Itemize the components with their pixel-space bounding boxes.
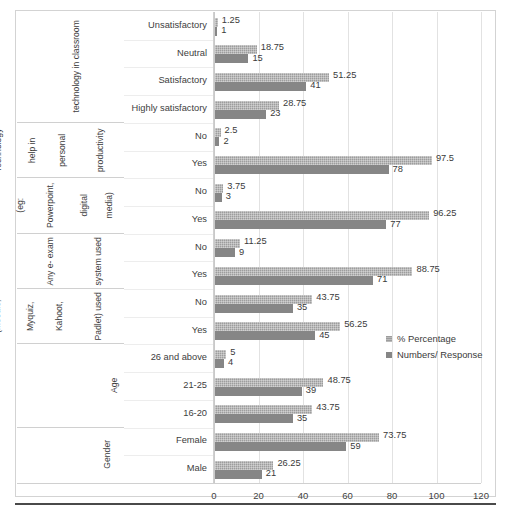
x-tick-label-100: 100	[429, 490, 445, 501]
bar-value-label-percentage: 96.25	[433, 209, 456, 218]
group-label-line: technology in classroom	[72, 20, 81, 112]
bar-value-label-percentage: 73.75	[383, 431, 406, 440]
row-separator	[124, 206, 213, 207]
x-tick-label-20: 20	[253, 490, 264, 501]
row-separator	[124, 151, 213, 152]
bar-value-label-percentage: 3.75	[227, 182, 245, 191]
category-label: Neutral	[177, 49, 207, 58]
x-tick-label-80: 80	[387, 490, 398, 501]
bar-value-label-numbers: 71	[377, 275, 387, 284]
group-label: Level of Satisfaction usingtechnology in…	[0, 11, 124, 122]
category-label: Highly satisfactory	[132, 104, 207, 113]
row-separator	[124, 317, 213, 318]
bar-numbers	[215, 276, 373, 285]
bar-value-label-percentage: 51.25	[333, 71, 356, 80]
row-separator	[124, 455, 213, 456]
bar-value-label-percentage: 28.75	[283, 99, 306, 108]
bar-numbers	[215, 387, 302, 396]
group-label: ICT toolssuch as(Moodle,Myquiz,Kahoot,Pa…	[0, 289, 124, 343]
category-label: No	[195, 187, 207, 196]
legend-label-percentage: % Percentage	[397, 333, 456, 344]
bar-value-label-numbers: 23	[270, 109, 280, 118]
bar-numbers	[215, 470, 262, 479]
category-label: Male	[187, 464, 207, 473]
row-separator	[124, 400, 213, 401]
group-label-line: media)	[105, 192, 114, 218]
bar-numbers	[215, 220, 386, 229]
category-label: Female	[176, 436, 207, 445]
bar-value-label-numbers: 2	[223, 137, 228, 146]
group-band: Level of Satisfaction usingtechnology in…	[17, 11, 124, 122]
legend-item-numbers: Numbers/ Response	[386, 349, 482, 360]
group-label: Age	[107, 344, 124, 426]
row-separator	[124, 67, 213, 68]
group-label-line: Age	[110, 378, 119, 393]
group-label-line: digital	[80, 194, 89, 216]
group-band: Technologyforinformationpresentation(eg:…	[17, 177, 124, 232]
legend-item-percentage: % Percentage	[386, 333, 482, 344]
bar-value-label-percentage: 26.25	[277, 459, 300, 468]
group-label-line: Any e- exam	[45, 237, 54, 285]
row-separator	[124, 261, 213, 262]
row-separator	[124, 234, 213, 235]
group-label: Technologyhelp inpersonalproductivity	[0, 123, 124, 177]
row-separator	[124, 428, 213, 429]
group-label-line: Gender	[103, 440, 112, 469]
category-label: No	[195, 298, 207, 307]
bar-numbers	[215, 27, 217, 36]
bar-percentage	[215, 184, 223, 193]
bar-value-label-percentage: 97.5	[436, 154, 454, 163]
bar-percentage	[215, 18, 218, 27]
gridline-80	[392, 12, 393, 483]
category-label-column: UnsatisfactoryNeutralSatisfactoryHighly …	[124, 12, 214, 483]
bar-value-label-percentage: 56.25	[344, 320, 367, 329]
category-label: No	[195, 132, 207, 141]
group-label-line: Padlet) used	[94, 292, 103, 340]
group-label-line: Powerpoint,	[46, 183, 55, 228]
row-separator	[124, 40, 213, 41]
group-label-line: (eg:	[16, 198, 25, 213]
bar-value-label-numbers: 9	[239, 248, 244, 257]
bar-numbers	[215, 248, 235, 257]
gridline-100	[437, 12, 438, 483]
bar-value-label-numbers: 1	[221, 26, 226, 35]
bar-value-label-numbers: 21	[266, 469, 276, 478]
group-label-line: personal	[58, 134, 67, 167]
row-separator	[124, 95, 213, 96]
bar-value-label-numbers: 4	[228, 358, 233, 367]
bar-numbers	[215, 137, 219, 146]
x-tick-label-40: 40	[298, 490, 309, 501]
bar-numbers	[215, 359, 224, 368]
group-label: Gender	[93, 428, 124, 482]
bottom-rule	[15, 503, 496, 505]
category-label: 16-20	[183, 409, 207, 418]
chart-screenshot: Level of Satisfaction usingtechnology in…	[0, 0, 510, 516]
group-label-line: system used	[94, 237, 103, 285]
bar-value-label-percentage: 2.5	[225, 126, 238, 135]
category-label: Satisfactory	[158, 76, 207, 85]
chart-frame: Level of Satisfaction usingtechnology in…	[15, 10, 496, 497]
group-label: Technologyforinformationpresentation(eg:…	[0, 178, 124, 232]
bar-value-label-percentage: 43.75	[316, 403, 339, 412]
x-tick-label-0: 0	[211, 490, 216, 501]
bar-value-label-percentage: 1.25	[222, 16, 240, 25]
bar-value-label-numbers: 39	[306, 386, 316, 395]
bar-numbers	[215, 304, 293, 313]
group-label-line: Myquiz,	[25, 301, 34, 331]
bar-value-label-numbers: 15	[252, 54, 262, 63]
category-label: 26 and above	[151, 353, 207, 362]
group-label-line: (Moodle,	[0, 300, 2, 333]
bar-value-label-percentage: 5	[230, 348, 235, 357]
gridline-60	[348, 12, 349, 483]
bar-value-label-percentage: 48.75	[327, 376, 350, 385]
bar-value-label-percentage: 43.75	[316, 293, 339, 302]
bar-value-label-numbers: 41	[310, 81, 320, 90]
row-separator	[124, 123, 213, 124]
group-label: Any e- examsystem used	[26, 234, 125, 288]
group-band: Technologyhelp inpersonalproductivity	[17, 122, 124, 177]
bar-value-label-percentage: 88.75	[416, 265, 439, 274]
bar-numbers	[215, 331, 315, 340]
bar-numbers	[215, 414, 293, 423]
bar-percentage	[215, 45, 257, 54]
group-band: ICT toolssuch as(Moodle,Myquiz,Kahoot,Pa…	[17, 288, 124, 343]
